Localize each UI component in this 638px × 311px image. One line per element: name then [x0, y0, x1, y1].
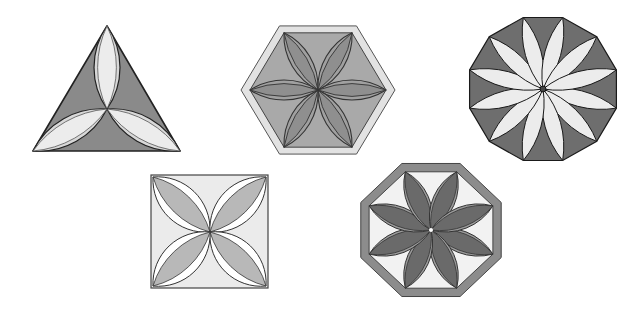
dodecagon-shape — [470, 18, 617, 161]
hexagon-shape — [241, 26, 395, 154]
octagon-shape — [361, 163, 501, 296]
dodecagon-center — [540, 86, 546, 92]
polygon-petal-figure — [0, 0, 638, 311]
octagon-center — [429, 228, 433, 232]
triangle-shape — [33, 26, 180, 151]
square-shape — [151, 175, 268, 288]
